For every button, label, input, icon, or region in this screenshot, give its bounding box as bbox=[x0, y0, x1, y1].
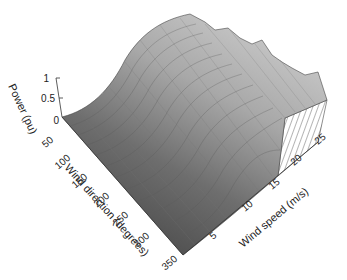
surface-plot: 1 0.5 0 Power (pu) 50 100 150 200 250 30… bbox=[0, 0, 347, 280]
x-tick-350: 350 bbox=[159, 253, 179, 272]
power-axis: 1 0.5 0 Power (pu) bbox=[6, 73, 63, 136]
z-tick-0: 0 bbox=[53, 115, 59, 126]
x-tick-50: 50 bbox=[40, 134, 56, 150]
z-tick-1: 1 bbox=[43, 73, 49, 84]
z-tick-0.5: 0.5 bbox=[41, 93, 55, 104]
z-axis-label: Power (pu) bbox=[6, 82, 40, 136]
